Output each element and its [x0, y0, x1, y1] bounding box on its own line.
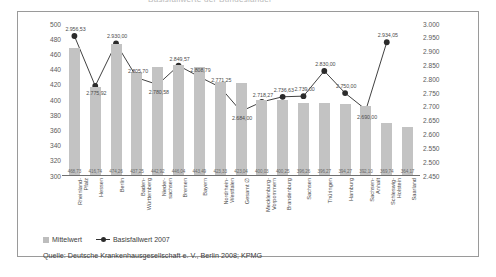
x-axis-category-label: Mecklenburg- Vorpommern — [265, 178, 277, 230]
line-value-label: 2.739,00 — [294, 86, 314, 92]
bar — [194, 67, 205, 176]
x-axis-line — [62, 175, 420, 176]
y-axis-right-tick: 2.750 — [423, 90, 440, 97]
legend-label-basisfallwert: Basisfallwert 2007 — [113, 236, 170, 243]
line-value-label: 2.718,27 — [253, 92, 273, 98]
x-axis-category-labels: Rheinland- PfalzHessenBerlinBaden- Württ… — [64, 178, 418, 230]
x-axis-category-label: Saarland — [411, 178, 417, 230]
x-axis-category-label: Hamburg — [348, 178, 354, 230]
bar-swatch-icon — [43, 237, 49, 243]
x-axis-category-label: Hessen — [98, 178, 104, 230]
x-axis-category-label: Thüringen — [327, 178, 333, 230]
x-axis-category-label: Nordrhein- Westfalen — [223, 178, 235, 230]
bar — [111, 44, 122, 176]
bar-value-label: 396,26 — [297, 169, 310, 174]
x-axis-category-label: Sachsen- Anhalt — [369, 178, 381, 230]
x-axis-category-label: Sachsen — [306, 178, 312, 230]
line-value-label: 2.771,25 — [211, 77, 231, 83]
bar — [236, 83, 247, 177]
chart-legend: Mittelwert Basisfallwert 2007 — [43, 236, 170, 243]
y-axis-right-tick: 3.000 — [423, 21, 440, 28]
line-marker-icon — [96, 237, 110, 243]
bar-value-label: 443,49 — [193, 169, 206, 174]
x-axis-category-label: Bremen — [182, 178, 188, 230]
y-axis-right-tick: 2.850 — [423, 62, 440, 69]
y-axis-left-tick: 360 — [50, 127, 61, 134]
line-data-point — [72, 33, 78, 39]
bar-value-label: 423,04 — [234, 169, 247, 174]
bar — [152, 67, 163, 176]
y-axis-right-tick: 2.900 — [423, 48, 440, 55]
bar — [340, 104, 351, 176]
bar-value-label: 474,26 — [109, 169, 122, 174]
x-axis-category-label: Baden- Württemberg — [140, 178, 152, 230]
x-axis-category-label: Bayern — [202, 178, 208, 230]
page-title: Basisfallwerte der Bundesländer — [148, 0, 272, 4]
y-axis-left-tick: 460 — [50, 51, 61, 58]
x-axis-category-label: Rheinland- Pfalz — [77, 178, 89, 230]
y-axis-right-tick: 2.950 — [423, 34, 440, 41]
line-value-label: 2.690,00 — [357, 114, 377, 120]
bar-value-label: 423,33 — [213, 169, 226, 174]
chart-frame: 5004804604404204003803603403203003.0002.… — [17, 11, 479, 257]
y-axis-left-tick: 420 — [50, 81, 61, 88]
bar — [90, 87, 101, 176]
source-note: Quelle: Deutsche Krankenhausgesellschaft… — [43, 251, 262, 260]
legend-item-mittelwert: Mittelwert — [43, 236, 82, 243]
line-value-label: 2.849,57 — [170, 56, 190, 62]
bar-value-label: 468,73 — [68, 169, 81, 174]
bar — [298, 103, 309, 176]
bar — [277, 100, 288, 176]
y-axis-left-tick: 320 — [50, 157, 61, 164]
x-axis-category-label: Schleswig- Holstein — [390, 178, 402, 230]
bar-value-label: 392,10 — [359, 169, 372, 174]
line-data-point — [280, 94, 286, 100]
bar — [256, 100, 267, 176]
line-value-label: 2.736,63 — [274, 87, 294, 93]
bar-value-label: 400,03 — [255, 169, 268, 174]
y-axis-right-tick: 2.650 — [423, 117, 440, 124]
line-value-label: 2.930,00 — [107, 33, 127, 39]
y-axis-left-tick: 300 — [50, 173, 61, 180]
y-axis-right-tick: 2.600 — [423, 131, 440, 138]
bar — [215, 82, 226, 176]
line-value-label: 2.750,00 — [336, 83, 356, 89]
y-axis-left-tick: 400 — [50, 97, 61, 104]
y-axis-right-tick: 2.800 — [423, 76, 440, 83]
y-axis-left-tick: 440 — [50, 66, 61, 73]
bar-value-label: 364,17 — [401, 169, 414, 174]
line-data-point — [301, 93, 307, 99]
x-axis-category-label: Berlin — [119, 178, 125, 230]
y-axis-left-tick: 500 — [50, 21, 61, 28]
bar — [131, 72, 142, 176]
bar-value-label: 396,27 — [318, 169, 331, 174]
y-axis-left-tick: 480 — [50, 36, 61, 43]
plot-area: 5004804604404204003803603403203003.0002.… — [64, 24, 418, 176]
bar-value-label: 442,92 — [151, 169, 164, 174]
y-axis-right-tick: 2.550 — [423, 145, 440, 152]
line-value-label: 2.808,79 — [190, 67, 210, 73]
line-data-point — [321, 68, 327, 74]
line-value-label: 2.830,00 — [315, 61, 335, 67]
y-axis-right-tick: 2.700 — [423, 103, 440, 110]
y-axis-left-tick: 380 — [50, 112, 61, 119]
chart-page: Basisfallwerte der Bundesländer 50048046… — [0, 0, 496, 277]
x-axis-category-label: Gesamt ∅ — [244, 178, 250, 230]
x-axis-category-label: Nieder- sachsen — [161, 178, 173, 230]
chart-title-strip: Basisfallwerte der Bundesländer — [0, 0, 496, 9]
bar-value-label: 446,04 — [172, 169, 185, 174]
y-axis-left-tick: 340 — [50, 142, 61, 149]
bar — [173, 65, 184, 176]
line-value-label: 2.956,53 — [65, 26, 85, 32]
line-value-label: 2.775,92 — [86, 90, 106, 96]
bar — [69, 48, 80, 176]
line-data-point — [384, 39, 390, 45]
line-value-label: 2.684,00 — [232, 115, 252, 121]
bar-value-label: 400,25 — [276, 169, 289, 174]
x-axis-category-label: Brandenburg — [286, 178, 292, 230]
bar — [319, 103, 330, 176]
bar-value-label: 369,74 — [380, 169, 393, 174]
y-axis-right-tick: 2.500 — [423, 159, 440, 166]
line-value-label: 2.934,05 — [378, 32, 398, 38]
legend-label-mittelwert: Mittelwert — [52, 236, 82, 243]
